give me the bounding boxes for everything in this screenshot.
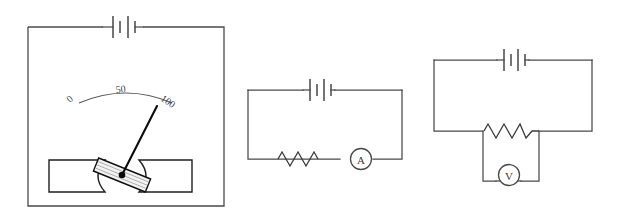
voltmeter-loop-left xyxy=(434,60,483,131)
scale-label-50: 50 xyxy=(115,83,126,95)
battery-symbol xyxy=(303,79,335,101)
scale-label-0: 0 xyxy=(64,93,75,105)
resistor-symbol xyxy=(484,124,539,138)
voltmeter-circuit-panel: V xyxy=(434,49,592,186)
ammeter-circuit-panel: A xyxy=(248,79,402,170)
voltmeter-label: V xyxy=(505,170,513,182)
ammeter-loop-left xyxy=(248,90,340,159)
circuit-figure: 0 50 100 xyxy=(0,0,621,221)
scale-label-100: 100 xyxy=(159,93,178,111)
voltmeter-symbol[interactable]: V xyxy=(499,165,520,186)
scale-label-0-text: 0 xyxy=(64,93,75,105)
meter-scale xyxy=(79,93,172,103)
circuit-diagram-svg: 0 50 100 xyxy=(0,0,621,221)
battery-symbol xyxy=(497,49,529,71)
scale-label-100-text: 100 xyxy=(159,93,178,111)
voltmeter-loop-right xyxy=(539,60,592,131)
scale-label-50-text: 50 xyxy=(115,83,126,95)
voltmeter-branch-left xyxy=(483,131,496,181)
battery-symbol xyxy=(103,16,143,38)
moving-coil-meter-panel: 0 50 100 xyxy=(28,16,224,206)
ammeter-label: A xyxy=(357,154,365,166)
ammeter-symbol[interactable]: A xyxy=(351,149,372,170)
ammeter-loop-right xyxy=(373,90,402,159)
voltmeter-branch-right xyxy=(521,131,539,181)
needle-pivot xyxy=(119,172,126,179)
